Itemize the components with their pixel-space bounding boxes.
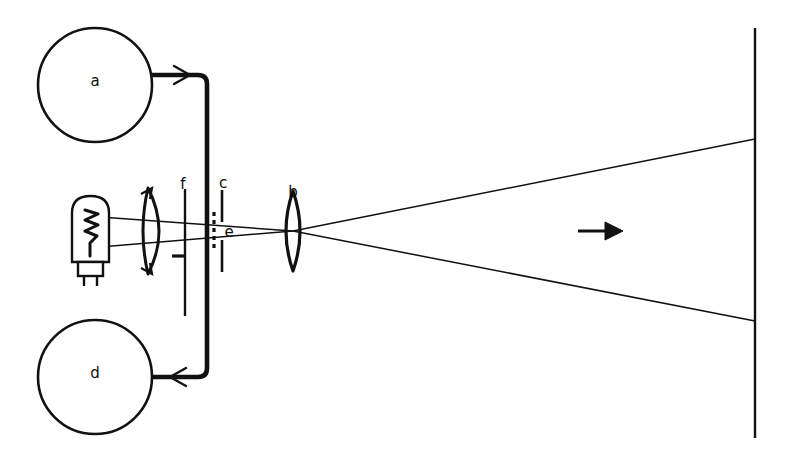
power-circle-a: a	[38, 28, 152, 142]
incandescent-lamp-icon	[72, 196, 109, 286]
label-e: e	[224, 223, 233, 241]
label-f: f	[180, 175, 186, 193]
lamp-base	[78, 262, 103, 276]
optical-diagram-canvas: a d f c e	[0, 0, 786, 450]
label-a: a	[90, 72, 99, 90]
diagram-svg: a d f c e	[0, 0, 786, 450]
label-b: b	[288, 183, 298, 201]
label-c: c	[219, 174, 227, 192]
label-d: d	[90, 364, 100, 382]
power-circle-d: d	[38, 320, 152, 434]
